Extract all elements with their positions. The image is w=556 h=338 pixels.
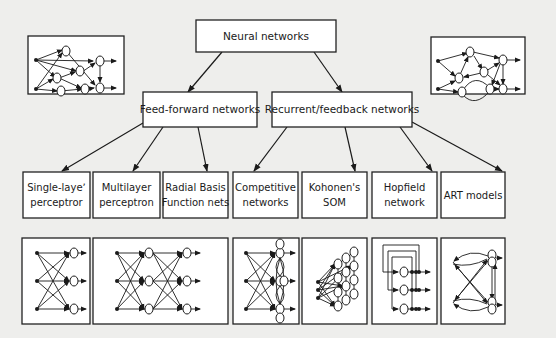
leaf-kohonen-som: Kohonen's SOM bbox=[302, 172, 367, 218]
edge-root-recurrent bbox=[314, 52, 342, 92]
input-node bbox=[244, 307, 248, 311]
neuron bbox=[70, 304, 78, 314]
leaf-label-line2: networks bbox=[243, 197, 289, 208]
edge-root-feedforward bbox=[188, 52, 222, 92]
category-label: Recurrent/feedback networks bbox=[265, 103, 419, 115]
leaf-art-models: ART models bbox=[441, 172, 505, 218]
neuron bbox=[145, 304, 153, 314]
edge-rec-kohonen bbox=[345, 127, 355, 171]
input-node bbox=[35, 307, 39, 311]
leaf-radial-basis-function-nets: Radial Basis Function nets bbox=[162, 172, 229, 218]
input-node bbox=[35, 251, 39, 255]
category-recurrent: Recurrent/feedback networks bbox=[265, 92, 419, 127]
neural-network-taxonomy-diagram: Neural networks Feed-forward networks Re… bbox=[0, 0, 556, 338]
neuron bbox=[350, 261, 358, 271]
leaf-label-line2: perceptror bbox=[30, 197, 83, 208]
input-node bbox=[316, 296, 320, 300]
neuron bbox=[334, 301, 342, 311]
leaf-label-line1: Radial Basis bbox=[165, 182, 225, 193]
edge-ff-rbf bbox=[198, 127, 207, 171]
leaf-label-line2: SOM bbox=[323, 197, 346, 208]
neuron bbox=[334, 273, 342, 283]
neuron bbox=[400, 304, 408, 314]
edge-rec-competitive bbox=[254, 127, 287, 171]
leaf-label-line2: perceptron bbox=[99, 197, 154, 208]
input-node bbox=[410, 270, 414, 274]
art-model-sketch bbox=[441, 238, 505, 324]
neuron bbox=[70, 248, 78, 258]
leaf-label-line2: network bbox=[384, 197, 425, 208]
leaf-label-line1: ART models bbox=[444, 190, 503, 201]
neuron bbox=[350, 275, 358, 285]
neuron bbox=[342, 295, 350, 305]
neuron bbox=[350, 247, 358, 257]
neuron bbox=[400, 285, 408, 295]
input-node bbox=[115, 279, 119, 283]
leaf-multilayer-perceptron: Multilayer perceptron bbox=[93, 172, 160, 218]
leaf-single-layer-perceptron: Single-layeʼ perceptror bbox=[23, 172, 90, 218]
neuron bbox=[488, 257, 496, 267]
neuron bbox=[183, 248, 191, 258]
leaf-label-line2: Function nets bbox=[162, 197, 229, 208]
neuron bbox=[342, 253, 350, 263]
root-label: Neural networks bbox=[223, 30, 309, 42]
input-node bbox=[316, 280, 320, 284]
neuron bbox=[276, 239, 284, 249]
input-node bbox=[316, 288, 320, 292]
input-node bbox=[244, 279, 248, 283]
leaf-label-line1: Multilayer bbox=[102, 182, 152, 193]
competitive-network-sketch bbox=[233, 238, 299, 324]
input-node bbox=[35, 279, 39, 283]
input-node bbox=[410, 307, 414, 311]
leaf-label-line1: Single-layeʼ bbox=[27, 182, 86, 193]
neuron bbox=[334, 259, 342, 269]
kohonen-som-sketch bbox=[302, 238, 367, 324]
input-node bbox=[115, 307, 119, 311]
neuron bbox=[145, 248, 153, 258]
leaf-competitive-networks: Competitive networks bbox=[233, 172, 298, 218]
neuron bbox=[334, 287, 342, 297]
neuron bbox=[276, 313, 284, 323]
input-node bbox=[417, 270, 421, 274]
root-node: Neural networks bbox=[196, 20, 336, 52]
input-node bbox=[417, 307, 421, 311]
category-feedforward: Feed-forward networks bbox=[140, 92, 261, 127]
edge-ff-single bbox=[62, 123, 143, 171]
neuron bbox=[488, 304, 496, 314]
input-node bbox=[410, 288, 414, 292]
neuron bbox=[342, 267, 350, 277]
edge-ff-multi bbox=[133, 127, 163, 171]
input-node bbox=[244, 251, 248, 255]
neuron bbox=[280, 276, 288, 286]
leaf-label-line1: Competitive bbox=[235, 182, 296, 193]
leaf-hopfield-network: Hopfield network bbox=[372, 172, 437, 218]
single-layer-perceptron-sketch bbox=[22, 238, 90, 324]
recurrent-network-sketch bbox=[431, 37, 525, 101]
multilayer-perceptron-sketch bbox=[93, 238, 228, 324]
neuron bbox=[70, 276, 78, 286]
feedforward-network-sketch bbox=[28, 36, 124, 96]
neuron bbox=[183, 276, 191, 286]
category-label: Feed-forward networks bbox=[140, 103, 261, 115]
neuron bbox=[400, 267, 408, 277]
edge-rec-art bbox=[412, 122, 502, 171]
neuron bbox=[183, 304, 191, 314]
neuron bbox=[342, 281, 350, 291]
leaf-label-line1: Kohonen's bbox=[309, 182, 360, 193]
neuron bbox=[350, 289, 358, 299]
edge-rec-hopfield bbox=[400, 127, 432, 171]
neuron bbox=[145, 276, 153, 286]
hopfield-network-sketch bbox=[372, 238, 437, 324]
leaf-label-line1: Hopfield bbox=[384, 182, 426, 193]
input-node bbox=[417, 288, 421, 292]
input-node bbox=[115, 251, 119, 255]
